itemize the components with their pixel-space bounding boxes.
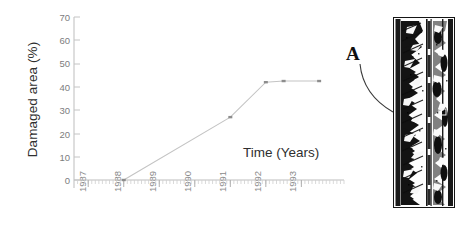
data-point-marker xyxy=(264,81,268,83)
figure-root: Damaged area (%) 70 60 50 40 30 20 10 0 … xyxy=(0,0,470,240)
data-series-line xyxy=(124,81,319,180)
data-point-marker xyxy=(282,80,286,82)
photo-inset xyxy=(393,17,455,208)
x-minor-ticks xyxy=(78,180,344,184)
data-point-marker xyxy=(317,80,321,82)
damaged-bark-photograph xyxy=(393,17,455,208)
data-point-marker xyxy=(228,116,232,118)
y-major-ticks xyxy=(74,17,80,180)
callout-leader-line xyxy=(360,64,393,112)
data-point-markers xyxy=(122,80,321,181)
data-point-marker xyxy=(122,179,126,181)
